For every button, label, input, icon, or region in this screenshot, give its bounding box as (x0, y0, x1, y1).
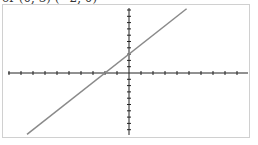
plotted-line (27, 9, 187, 135)
line-graph (0, 0, 258, 145)
